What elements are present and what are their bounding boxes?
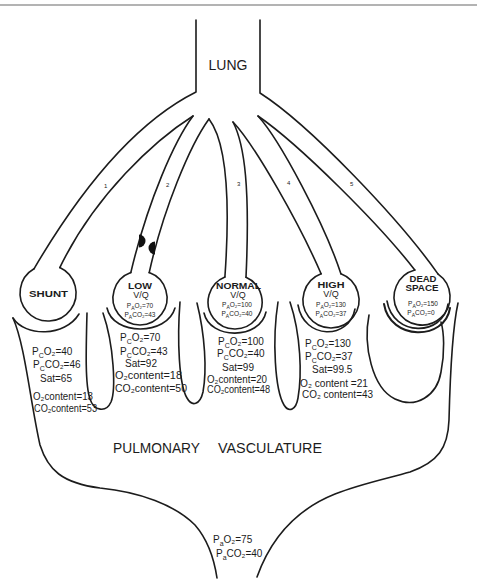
vq-ratio-label: V/Q <box>323 289 339 299</box>
gas-value: O₂=100 <box>230 336 265 347</box>
gas-value: O₂=75 <box>224 534 253 545</box>
capillary-po2: PCO₂=100 <box>218 336 264 349</box>
alveolar-po2: PAO₂=150 <box>408 300 438 309</box>
branch-labels: 1 2 3 4 5 <box>104 180 354 189</box>
branch-label-4: 4 <box>287 180 291 186</box>
capillary-o2-content: O₂ content =21 <box>300 378 368 389</box>
gas-value: CO₂=40 <box>229 310 253 317</box>
branch-label-2: 2 <box>166 182 170 188</box>
alveolar-pco2: PACO₂=0 <box>407 309 435 318</box>
gas-value: O₂=40 <box>44 346 73 357</box>
gas-value: CO₂=40 <box>227 548 263 559</box>
branch-label-5: 5 <box>350 181 354 187</box>
capillary-saturation: Sat=92 <box>125 358 157 369</box>
capillary-o2-content: O₂content=13 <box>33 391 93 402</box>
capillary-po2: PCO₂=70 <box>120 332 161 345</box>
capillary-o2-content: O₂content=18 <box>115 370 182 381</box>
vasculature-label-word-2: VASCULATURE <box>218 440 322 456</box>
gas-value: CO₂=43 <box>132 346 168 357</box>
alveolar-pco2: PACO₂=37 <box>316 310 347 319</box>
alveolus-low-vq: LOW V/Q PAO₂=70 PACO₂=43 <box>113 273 167 325</box>
alveolus-title: SHUNT <box>29 289 69 299</box>
gas-value: O₂=100 <box>230 301 253 308</box>
alveolus-dead-space: DEAD SPACE PAO₂=150 PACO₂=0 <box>394 270 450 325</box>
alveolus-normal-vq: NORMAL V/Q PAO₂=100 PACO₂=40 <box>208 277 262 329</box>
vq-ratio-label: V/Q <box>230 290 246 300</box>
gas-value: O₂=150 <box>416 300 439 307</box>
gas-value: CO₂=0 <box>415 309 435 316</box>
branch-label-3: 3 <box>237 181 241 187</box>
capillary-values-normal-vq: PCO₂=100 PCCO₂=40 Sat=99 O₂content=20 CO… <box>207 336 270 395</box>
capillary-co2-content: CO₂ content=43 <box>302 389 373 400</box>
capillary-pco2: PCCO₂=46 <box>33 359 81 372</box>
trachea-right-wall-and-branch-5-outer <box>260 20 438 274</box>
arterial-po2: PaO₂=75 <box>213 534 253 547</box>
dead-space-occluded-capillary <box>367 315 443 402</box>
capillary-values-high-vq: PCO₂=130 PCCO₂=37 Sat=99.5 O₂ content =2… <box>300 338 373 400</box>
gas-value: CO₂=40 <box>229 348 265 359</box>
gas-value: O₂=130 <box>324 301 347 308</box>
capillary-saturation: Sat=99 <box>222 362 254 373</box>
alveolus-title-line-2: SPACE <box>406 283 439 293</box>
vq-mismatch-diagram: LUNG 1 2 3 4 5 SHUNT LOW V/Q PAO₂=70 PAC… <box>0 0 477 581</box>
airway-obstruction-left-icon <box>139 235 146 248</box>
capillary-pco2: PCCO₂=43 <box>120 346 168 359</box>
capillary-cup-shunt <box>13 314 79 332</box>
trachea-left-wall-and-branch-1-outer <box>34 20 196 269</box>
branch-label-1: 1 <box>104 183 108 189</box>
alveolus-shunt: SHUNT <box>20 268 76 321</box>
gas-value: O₂=70 <box>132 332 161 343</box>
airway-obstruction-right-icon <box>149 242 155 255</box>
capillary-po2: PCO₂=130 <box>305 338 351 351</box>
gas-value: CO₂=43 <box>132 311 156 318</box>
gas-value: CO₂=37 <box>317 351 353 362</box>
capillary-pco2: PCCO₂=37 <box>305 351 353 364</box>
capillary-co2-content: CO₂content=48 <box>207 384 270 395</box>
arterial-pco2: PaCO₂=40 <box>216 548 263 561</box>
capillary-co2-content: CO₂content=50 <box>115 383 187 394</box>
branch-3-right-wall <box>233 122 247 277</box>
vq-ratio-label: V/Q <box>133 290 149 300</box>
vasculature-label-word-1: PULMONARY <box>113 440 201 456</box>
gas-value: CO₂=46 <box>45 359 81 370</box>
gas-value: CO₂=37 <box>323 310 347 317</box>
alveolar-po2: PAO₂=130 <box>316 301 346 310</box>
lung-label: LUNG <box>209 57 248 73</box>
branch-5-left-wall <box>258 116 415 270</box>
alveolar-pco2: PACO₂=40 <box>222 310 253 319</box>
alveolar-po2: PAO₂=70 <box>127 302 154 311</box>
capillary-saturation: Sat=99.5 <box>312 364 353 375</box>
capillary-pco2: PCCO₂=40 <box>217 348 265 361</box>
alveolar-po2: PAO₂=100 <box>222 301 252 310</box>
alveolar-pco2: PACO₂=43 <box>125 311 156 320</box>
capillary-values-low-vq: PCO₂=70 PCCO₂=43 Sat=92 O₂content=18 CO₂… <box>115 332 187 394</box>
arterial-values: PaO₂=75 PaCO₂=40 <box>213 534 263 561</box>
branch-3-left-wall <box>209 119 227 277</box>
branch-4-right-wall <box>258 116 341 274</box>
capillary-saturation: Sat=65 <box>40 373 72 384</box>
tissue-septum-3 <box>275 302 300 409</box>
capillary-co2-content: CO₂content=53 <box>34 403 97 414</box>
capillary-po2: PCO₂=40 <box>32 346 73 359</box>
gas-value: O₂=70 <box>135 302 154 309</box>
gas-value: O₂=130 <box>317 338 352 349</box>
